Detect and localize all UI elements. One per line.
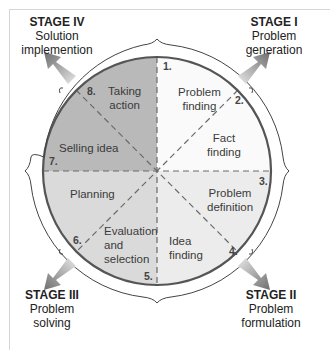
stage-i-label: STAGE I Problem generation [234,15,314,57]
stage-iv-line1: Solution [12,29,102,43]
segment-1-line2: finding [178,99,221,113]
segment-label-selling-idea: Selling idea [59,141,118,155]
segment-8-line1: Taking [108,84,141,98]
segment-3-line2: definition [207,200,253,214]
segment-number-7: 7. [49,155,58,167]
segment-3-line1: Problem [207,186,253,200]
segment-number-8: 8. [87,85,96,97]
segment-label-taking-action: Taking action [108,84,141,112]
stage-iii-title: STAGE III [12,288,92,302]
stage-ii-line1: Problem [228,302,314,316]
stage-ii-title: STAGE II [228,288,314,302]
stage-iv-line2: implemention [12,43,102,57]
arrow-stage-iii [44,258,76,290]
segment-label-fact-finding: Fact finding [207,131,241,159]
segment-label-idea-finding: Idea finding [169,234,203,262]
stage-iv-label: STAGE IV Solution implemention [12,15,102,57]
segment-label-problem-finding: Problem finding [178,85,221,113]
segment-4-line1: Idea [169,234,203,248]
segment-label-problem-definition: Problem definition [207,186,253,214]
segment-number-3: 3. [259,175,268,187]
segment-6-line1: Planning [70,187,115,201]
segment-5-line1: Evaluation [104,224,158,238]
segment-2-line2: finding [207,145,241,159]
stage-i-line2: generation [234,43,314,57]
segment-number-1: 1. [163,60,172,72]
segment-1-line1: Problem [178,85,221,99]
stage-i-line1: Problem [234,29,314,43]
stage-i-title: STAGE I [234,15,314,29]
stage-iii-line1: Problem [12,302,92,316]
segment-label-planning: Planning [70,187,115,201]
arrow-stage-ii [238,258,270,290]
segment-7-line1: Selling idea [59,141,118,155]
stage-iii-label: STAGE III Problem solving [12,288,92,330]
segment-4-line2: finding [169,248,203,262]
segment-2-line1: Fact [207,131,241,145]
stage-iv-title: STAGE IV [12,15,102,29]
segment-5-line3: selection [104,252,158,266]
segment-number-2: 2. [235,94,244,106]
stage-iii-line2: solving [12,316,92,330]
segment-number-6: 6. [73,234,82,246]
stage-ii-line2: formulation [228,316,314,330]
segment-5-line2: and [104,238,158,252]
stage-ii-label: STAGE II Problem formulation [228,288,314,330]
segment-8-line2: action [108,98,141,112]
segment-label-evaluation-and-selection: Evaluation and selection [104,224,158,266]
segment-number-5: 5. [144,270,153,282]
segment-number-4: 4. [229,245,238,257]
